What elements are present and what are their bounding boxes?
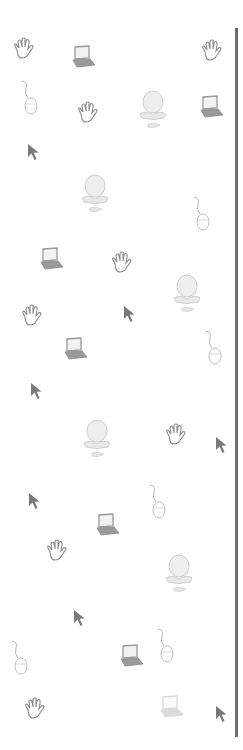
cursor-icon — [30, 382, 44, 400]
hand-icon — [76, 102, 100, 124]
laptop-icon — [118, 644, 144, 668]
cursor-icon — [215, 436, 229, 454]
cursor-icon — [215, 705, 229, 723]
cursor-icon — [73, 609, 87, 627]
mouse-icon — [20, 80, 40, 114]
mouse-icon — [156, 628, 176, 662]
laptop-icon — [94, 513, 120, 537]
laptop-icon — [38, 247, 64, 271]
cursor-icon — [27, 143, 41, 161]
computer-icon — [162, 552, 196, 596]
mouse-icon — [204, 330, 224, 364]
mouse-icon — [192, 196, 212, 230]
mouse-icon — [10, 640, 30, 674]
hand-icon — [45, 540, 69, 562]
computer-icon — [136, 88, 170, 132]
computer-icon — [170, 272, 204, 316]
hand-icon — [164, 424, 188, 446]
cursor-icon — [28, 492, 42, 510]
computer-icon — [78, 172, 112, 216]
hand-icon — [12, 38, 36, 60]
hand-icon — [200, 40, 224, 62]
laptop-icon — [198, 95, 224, 119]
laptop-icon — [158, 695, 184, 719]
hand-icon — [20, 305, 44, 327]
mouse-icon — [148, 484, 168, 518]
cursor-icon — [123, 305, 137, 323]
vertical-divider — [235, 28, 238, 737]
laptop-icon — [62, 337, 88, 361]
hand-icon — [110, 252, 134, 274]
computer-icon — [80, 417, 114, 461]
hand-icon — [23, 698, 47, 720]
laptop-icon — [70, 45, 96, 69]
